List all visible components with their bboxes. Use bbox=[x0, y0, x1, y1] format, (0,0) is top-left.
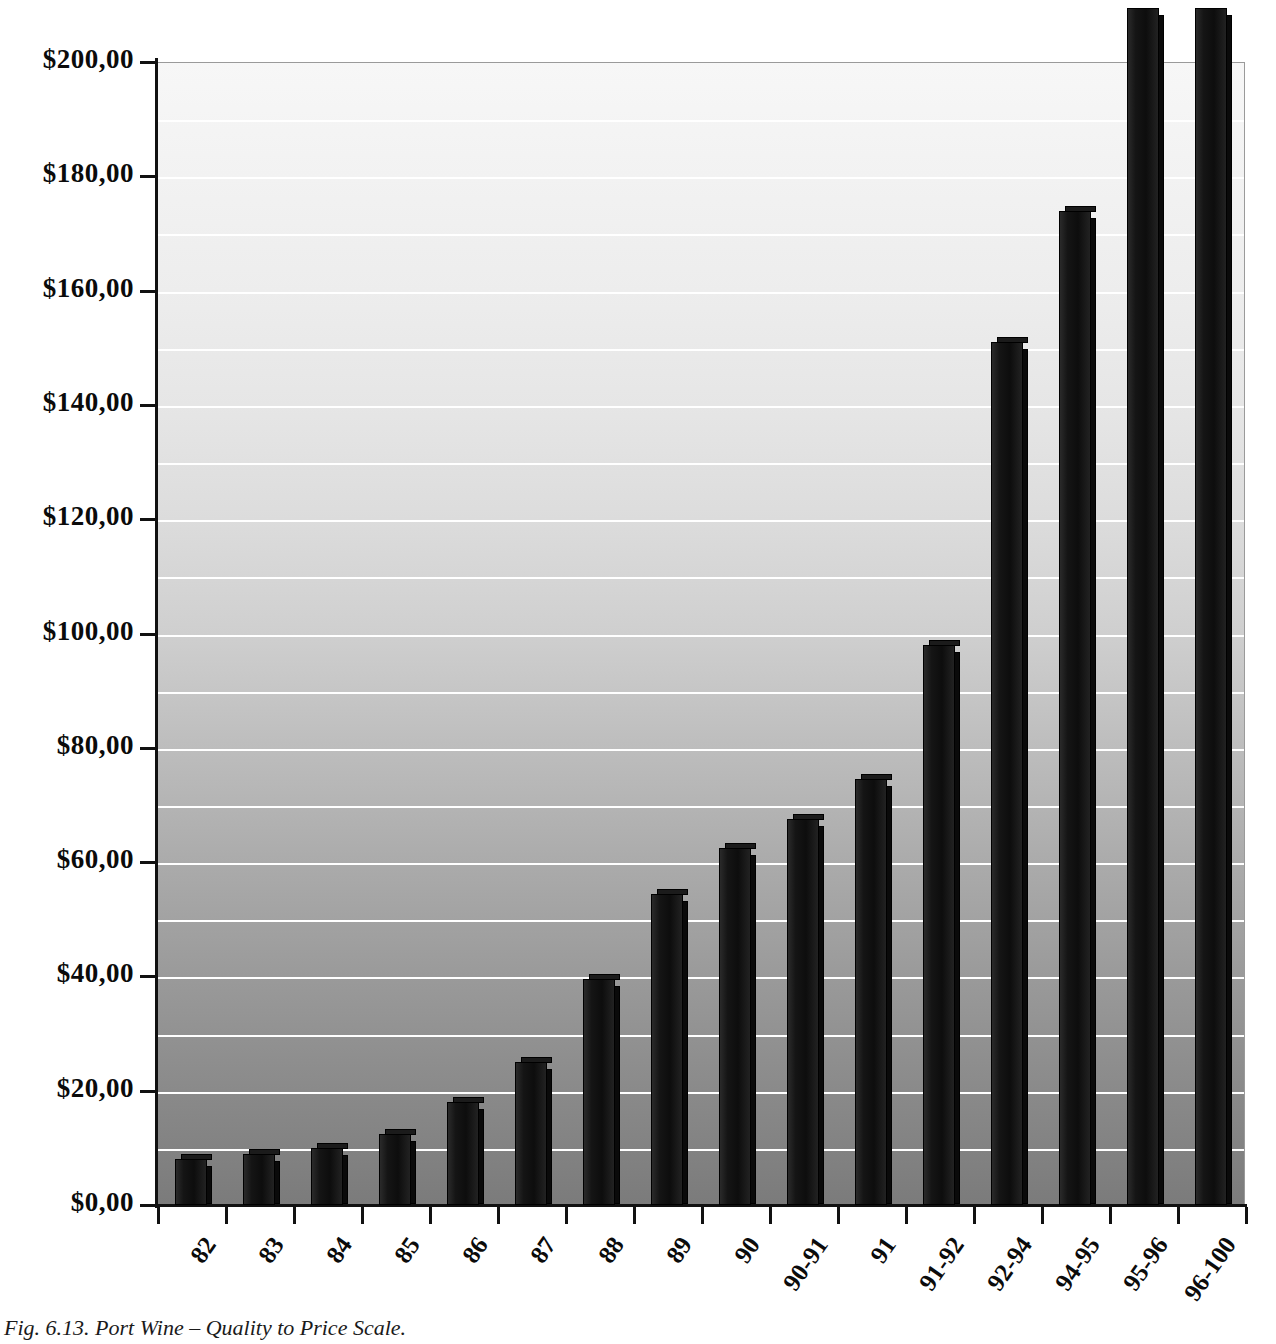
x-axis-tick bbox=[633, 1207, 636, 1224]
bar bbox=[1127, 8, 1159, 1205]
bar bbox=[243, 1154, 275, 1205]
y-axis-tick-label: $80,00 bbox=[57, 730, 134, 761]
gridline bbox=[158, 120, 1244, 122]
bar-top-face bbox=[317, 1143, 348, 1149]
x-axis-tick bbox=[973, 1207, 976, 1224]
bar-side-face bbox=[1090, 218, 1096, 1204]
bar-top-face bbox=[657, 889, 688, 895]
y-axis-tick-label: $120,00 bbox=[43, 501, 134, 532]
bar bbox=[515, 1062, 547, 1205]
y-axis-tick bbox=[140, 175, 158, 178]
bar bbox=[311, 1148, 343, 1205]
bar-top-face bbox=[249, 1149, 280, 1155]
bar-side-face bbox=[546, 1069, 552, 1204]
bar bbox=[447, 1102, 479, 1205]
x-axis-tick bbox=[157, 1207, 160, 1224]
x-axis-tick bbox=[1109, 1207, 1112, 1224]
bar-top-face bbox=[1065, 206, 1096, 212]
bar-side-face bbox=[682, 901, 688, 1204]
bar-side-face bbox=[478, 1109, 484, 1204]
bar-side-face bbox=[206, 1166, 212, 1204]
x-axis-tick bbox=[497, 1207, 500, 1224]
x-axis-tick bbox=[293, 1207, 296, 1224]
y-axis-tick-label: $200,00 bbox=[43, 44, 134, 75]
x-axis-tick bbox=[225, 1207, 228, 1224]
y-axis-tick bbox=[140, 290, 158, 293]
x-axis-tick bbox=[1177, 1207, 1180, 1224]
bar-top-face bbox=[725, 843, 756, 849]
y-axis-tick-label: $40,00 bbox=[57, 958, 134, 989]
y-axis-tick-label: $180,00 bbox=[43, 158, 134, 189]
y-axis-tick bbox=[140, 1204, 158, 1207]
x-axis-tick bbox=[769, 1207, 772, 1224]
bar-top-face bbox=[793, 814, 824, 820]
x-axis-tick bbox=[701, 1207, 704, 1224]
bar bbox=[651, 894, 683, 1205]
x-axis-tick bbox=[429, 1207, 432, 1224]
bar-top-face bbox=[861, 774, 892, 780]
y-axis-tick bbox=[140, 633, 158, 636]
bar-top-face bbox=[589, 974, 620, 980]
bar-top-face bbox=[997, 337, 1028, 343]
bar-top-face bbox=[521, 1057, 552, 1063]
bar-side-face bbox=[818, 826, 824, 1204]
figure-port-wine-quality-to-price-scale: $0,00$20,00$40,00$60,00$80,00$100,00$120… bbox=[0, 0, 1276, 1344]
bar bbox=[719, 848, 751, 1205]
y-axis-tick bbox=[140, 518, 158, 521]
bar-side-face bbox=[1158, 15, 1164, 1204]
bar bbox=[991, 342, 1023, 1205]
y-axis-tick bbox=[140, 61, 158, 64]
bar-side-face bbox=[410, 1141, 416, 1204]
x-axis-tick bbox=[905, 1207, 908, 1224]
bar-side-face bbox=[614, 986, 620, 1204]
bar bbox=[583, 979, 615, 1205]
bar bbox=[175, 1159, 207, 1205]
bar-side-face bbox=[1226, 15, 1232, 1204]
bar-side-face bbox=[750, 855, 756, 1204]
bar-side-face bbox=[274, 1161, 280, 1204]
y-axis-tick bbox=[140, 1090, 158, 1093]
y-axis-tick-label: $0,00 bbox=[71, 1187, 134, 1218]
y-axis-tick bbox=[140, 747, 158, 750]
figure-caption: Fig. 6.13. Port Wine – Quality to Price … bbox=[4, 1315, 406, 1341]
y-axis-tick-label: $140,00 bbox=[43, 387, 134, 418]
y-axis-tick-label: $160,00 bbox=[43, 273, 134, 304]
bar bbox=[787, 819, 819, 1205]
x-axis-tick bbox=[1041, 1207, 1044, 1224]
bar-side-face bbox=[1022, 349, 1028, 1204]
bar bbox=[855, 779, 887, 1205]
bar-side-face bbox=[954, 652, 960, 1204]
bar-top-face bbox=[453, 1097, 484, 1103]
y-axis-tick-label: $20,00 bbox=[57, 1073, 134, 1104]
gridline bbox=[158, 177, 1244, 179]
x-axis-tick bbox=[565, 1207, 568, 1224]
x-axis-tick bbox=[837, 1207, 840, 1224]
bar-side-face bbox=[342, 1155, 348, 1204]
y-axis-tick bbox=[140, 861, 158, 864]
y-axis-tick-label: $60,00 bbox=[57, 844, 134, 875]
bar bbox=[1195, 8, 1227, 1205]
y-axis-tick-label: $100,00 bbox=[43, 616, 134, 647]
x-axis-tick bbox=[1245, 1207, 1248, 1224]
y-axis-tick bbox=[140, 975, 158, 978]
bar-top-face bbox=[929, 640, 960, 646]
bar-top-face bbox=[181, 1154, 212, 1160]
bar bbox=[923, 645, 955, 1205]
y-axis-tick bbox=[140, 404, 158, 407]
bar bbox=[379, 1134, 411, 1205]
bar bbox=[1059, 211, 1091, 1205]
bar-top-face bbox=[385, 1129, 416, 1135]
x-axis-tick bbox=[361, 1207, 364, 1224]
bar-side-face bbox=[886, 786, 892, 1204]
